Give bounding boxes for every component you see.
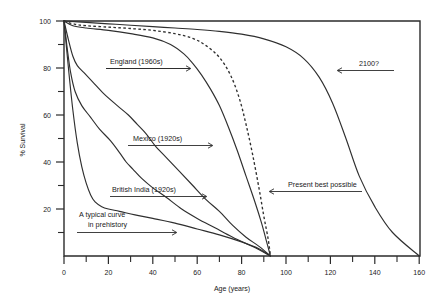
x-tick-label-60: 60 xyxy=(193,269,201,276)
x-tick-label-0: 0 xyxy=(62,269,66,276)
x-tick-label-100: 100 xyxy=(280,269,292,276)
annotation-england: England (1960s) xyxy=(110,57,163,66)
annotation-mexico: Mexico (1920s) xyxy=(133,134,182,143)
x-tick-label-80: 80 xyxy=(238,269,246,276)
annotation-2100: 2100? xyxy=(359,59,379,68)
annotation-prehistory-line1: A typical curve xyxy=(79,210,125,219)
y-axis-title: % Survival xyxy=(19,123,26,157)
annotation-present-best: Present best possible xyxy=(288,180,357,189)
y-tick-label-20: 20 xyxy=(43,206,51,213)
y-tick-label-100: 100 xyxy=(39,18,51,25)
annotation-prehistory-line2: in prehistory xyxy=(88,220,128,229)
y-tick-label-40: 40 xyxy=(43,159,51,166)
x-tick-label-140: 140 xyxy=(369,269,381,276)
x-tick-label-120: 120 xyxy=(325,269,337,276)
annotation-british-india: British India (1920s) xyxy=(112,185,176,194)
x-tick-label-20: 20 xyxy=(105,269,113,276)
survival-curve-chart: 100 80 60 40 20 % Survival 0 20 40 60 80… xyxy=(0,0,447,302)
x-axis-title: Age (years) xyxy=(214,285,250,293)
y-tick-label-80: 80 xyxy=(43,65,51,72)
y-tick-label-60: 60 xyxy=(43,112,51,119)
x-tick-label-160: 160 xyxy=(413,269,425,276)
x-tick-label-40: 40 xyxy=(149,269,157,276)
